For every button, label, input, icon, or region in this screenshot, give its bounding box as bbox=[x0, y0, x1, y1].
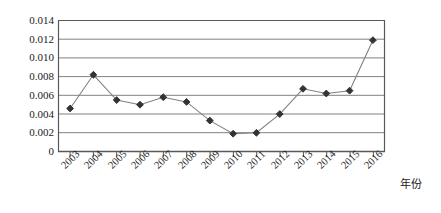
ytick-label-0.004: 0.004 bbox=[12, 109, 54, 120]
plot-border bbox=[58, 20, 385, 152]
gridlines bbox=[58, 21, 385, 133]
ytick-label-0: 0 bbox=[12, 146, 54, 157]
data-point-2010 bbox=[230, 130, 237, 137]
data-series-markers bbox=[67, 37, 377, 137]
data-point-2006 bbox=[137, 101, 144, 108]
line-chart: 0.014 0.012 0.010 0.008 0.006 0.004 0.00… bbox=[0, 0, 441, 213]
data-point-2014 bbox=[323, 90, 330, 97]
ytick-label-0.006: 0.006 bbox=[12, 90, 54, 101]
ytick-label-0.010: 0.010 bbox=[12, 52, 54, 63]
ytick-label-0.014: 0.014 bbox=[12, 15, 54, 26]
chart-plot-area bbox=[0, 0, 441, 213]
x-axis-title: 年份 bbox=[400, 178, 422, 190]
ytick-label-0.008: 0.008 bbox=[12, 71, 54, 82]
ytick-label-0.002: 0.002 bbox=[12, 127, 54, 138]
data-point-2003 bbox=[67, 105, 74, 112]
data-point-2016 bbox=[369, 37, 376, 44]
ytick-label-0.012: 0.012 bbox=[12, 34, 54, 45]
data-series-line bbox=[70, 40, 373, 134]
data-point-2015 bbox=[346, 87, 353, 94]
